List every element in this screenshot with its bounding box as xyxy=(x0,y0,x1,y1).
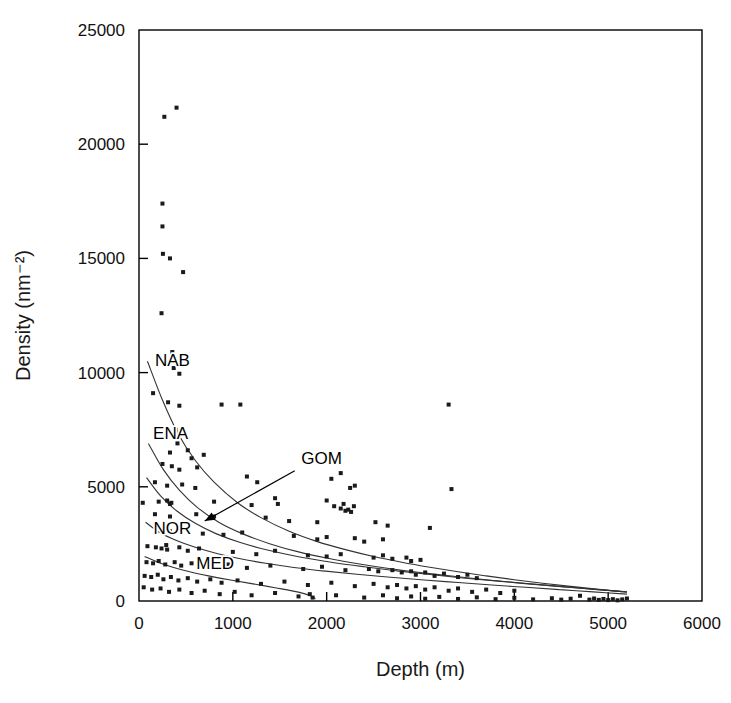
data-point-marker xyxy=(273,549,277,553)
data-point-marker xyxy=(470,590,474,594)
data-point-marker xyxy=(362,596,366,600)
data-point-marker xyxy=(606,598,610,602)
data-point-marker xyxy=(201,532,205,536)
curve-label-med: MED xyxy=(196,554,234,573)
data-point-marker xyxy=(245,475,249,479)
data-point-marker xyxy=(512,596,516,600)
data-point-marker xyxy=(372,556,376,560)
data-point-marker xyxy=(203,589,207,593)
data-point-marker xyxy=(212,500,216,504)
data-point-marker xyxy=(414,584,418,588)
data-point-marker xyxy=(153,480,157,484)
data-point-marker xyxy=(325,499,329,503)
data-point-marker xyxy=(373,520,377,524)
data-point-marker xyxy=(276,502,280,506)
data-point-marker xyxy=(601,597,605,601)
data-point-marker xyxy=(162,115,166,119)
data-point-marker xyxy=(165,499,169,503)
data-point-marker xyxy=(301,567,305,571)
y-axis-tick-label: 15000 xyxy=(78,249,125,268)
data-point-marker xyxy=(395,596,399,600)
data-point-marker xyxy=(306,583,310,587)
figure-container: 0500010000150002000025000010002000300040… xyxy=(0,0,731,703)
data-point-marker xyxy=(343,568,347,572)
data-point-marker xyxy=(161,252,165,256)
x-axis-tick-label: 4000 xyxy=(495,614,533,633)
data-point-marker xyxy=(611,597,615,601)
data-point-marker xyxy=(233,590,237,594)
data-point-marker xyxy=(165,484,169,488)
data-point-marker xyxy=(329,581,333,585)
data-point-marker xyxy=(419,558,423,562)
data-point-marker xyxy=(297,594,301,598)
data-point-marker xyxy=(231,550,235,554)
data-point-marker xyxy=(395,583,399,587)
data-point-marker xyxy=(245,566,249,570)
data-point-marker xyxy=(153,512,157,516)
data-point-marker xyxy=(512,589,516,593)
y-axis-tick-label: 25000 xyxy=(78,21,125,40)
data-point-marker xyxy=(282,580,286,584)
data-point-marker xyxy=(190,591,194,595)
data-point-marker xyxy=(325,554,329,558)
data-point-marker xyxy=(250,503,254,507)
data-point-marker xyxy=(475,595,479,599)
data-point-marker xyxy=(409,559,413,563)
data-point-marker xyxy=(221,533,225,537)
data-point-marker xyxy=(220,403,224,407)
data-point-marker xyxy=(381,537,385,541)
y-axis-title: Density (nm⁻²) xyxy=(12,250,34,381)
data-point-marker xyxy=(264,516,268,520)
data-point-marker xyxy=(352,504,356,508)
data-point-marker xyxy=(150,588,154,592)
data-point-marker xyxy=(339,507,343,511)
data-point-marker xyxy=(287,519,291,523)
data-point-marker xyxy=(181,270,185,274)
data-point-marker xyxy=(381,593,385,597)
data-point-marker xyxy=(190,561,194,565)
data-point-marker xyxy=(342,502,346,506)
data-point-marker xyxy=(329,477,333,481)
data-point-marker xyxy=(250,593,254,597)
data-point-marker xyxy=(218,592,222,596)
data-point-marker xyxy=(160,546,164,550)
data-point-marker xyxy=(186,576,190,580)
x-axis-title: Depth (m) xyxy=(376,658,465,680)
data-point-marker xyxy=(177,545,181,549)
data-point-marker xyxy=(151,391,155,395)
data-point-marker xyxy=(259,582,263,586)
data-point-marker xyxy=(208,577,212,581)
data-point-marker xyxy=(616,598,620,602)
y-axis-tick-label: 10000 xyxy=(78,364,125,383)
data-point-marker xyxy=(194,512,198,516)
scatter-plot-svg: 0500010000150002000025000010002000300040… xyxy=(0,0,731,703)
data-point-marker xyxy=(159,586,163,590)
data-point-marker xyxy=(423,597,427,601)
data-point-marker xyxy=(177,468,181,472)
data-point-marker xyxy=(587,598,591,602)
data-point-marker xyxy=(348,486,352,490)
data-point-marker xyxy=(456,597,460,601)
data-point-marker xyxy=(367,567,371,571)
data-point-marker xyxy=(273,591,277,595)
y-axis-tick-label: 5000 xyxy=(87,478,125,497)
data-point-marker xyxy=(193,486,197,490)
data-point-marker xyxy=(349,510,353,514)
data-point-marker xyxy=(236,578,240,582)
data-point-marker xyxy=(372,582,376,586)
data-point-marker xyxy=(143,574,147,578)
data-point-marker xyxy=(386,524,390,528)
data-point-marker xyxy=(195,580,199,584)
data-point-marker xyxy=(390,568,394,572)
plot-frame xyxy=(139,30,702,601)
data-point-marker xyxy=(186,448,190,452)
x-axis-tick-label: 2000 xyxy=(308,614,346,633)
data-point-marker xyxy=(414,573,418,577)
data-point-marker xyxy=(315,520,319,524)
data-point-marker xyxy=(169,575,173,579)
data-point-marker xyxy=(190,456,194,460)
data-point-marker xyxy=(569,597,573,601)
data-point-marker xyxy=(437,595,441,599)
data-point-marker xyxy=(456,586,460,590)
y-axis-tick-label: 0 xyxy=(116,592,125,611)
